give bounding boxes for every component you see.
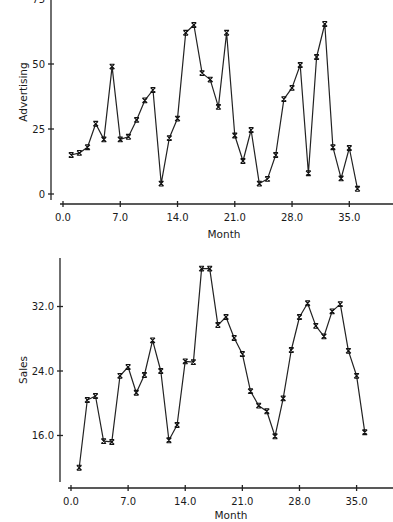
x-marker-icon	[256, 403, 261, 408]
advertising-chart: 0255075 0.07.014.021.028.035.0 Month Adv…	[17, 0, 393, 240]
x-tick-label: 35.0	[338, 212, 360, 223]
y-tick-label: 16.0	[32, 430, 54, 441]
y-tick-label: 25	[32, 124, 45, 135]
x-tick-label: 14.0	[166, 212, 188, 223]
x-tick-label: 21.0	[224, 212, 246, 223]
x-marker-icon	[142, 98, 147, 103]
sales-y-ticks: 16.024.032.0	[32, 301, 63, 441]
x-marker-icon	[134, 118, 139, 123]
y-tick-label: 32.0	[32, 301, 54, 312]
advertising-y-axis-title: Advertising	[17, 62, 29, 121]
x-tick-label: 7.0	[112, 212, 128, 223]
advertising-x-axis-title: Month	[208, 228, 241, 240]
y-tick-label: 75	[32, 0, 45, 5]
sales-y-axis-title: Sales	[17, 356, 29, 384]
x-tick-label: 0.0	[63, 496, 79, 507]
sales-chart: 16.024.032.0 0.07.014.021.028.035.0 Mont…	[17, 258, 393, 521]
series-line	[79, 269, 365, 468]
x-tick-label: 35.0	[345, 496, 367, 507]
x-tick-label: 28.0	[288, 496, 310, 507]
x-tick-label: 28.0	[281, 212, 303, 223]
y-tick-label: 0	[39, 189, 45, 200]
x-marker-icon	[232, 336, 237, 341]
x-tick-label: 14.0	[174, 496, 196, 507]
sales-series	[77, 266, 367, 470]
advertising-series	[69, 22, 360, 192]
sales-x-axis-title: Month	[215, 509, 248, 521]
x-tick-label: 0.0	[55, 212, 71, 223]
chart-canvas: 0255075 0.07.014.021.028.035.0 Month Adv…	[0, 0, 393, 522]
x-tick-label: 7.0	[120, 496, 136, 507]
x-tick-label: 21.0	[231, 496, 253, 507]
y-tick-label: 50	[32, 59, 45, 70]
series-line	[71, 24, 357, 189]
y-tick-label: 24.0	[32, 366, 54, 377]
